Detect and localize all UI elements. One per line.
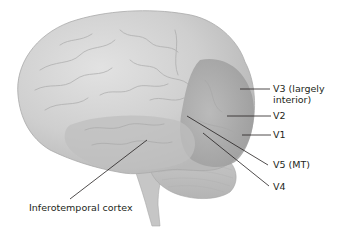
label-v3-line2: interior) bbox=[273, 94, 325, 105]
label-v3-line1: V3 (largely bbox=[273, 83, 325, 94]
label-v5-mt: V5 (MT) bbox=[273, 159, 310, 170]
label-inferotemporal-cortex: Inferotemporal cortex bbox=[29, 202, 133, 213]
label-v2: V2 bbox=[273, 110, 286, 121]
brain-diagram: V3 (largely interior) V2 V1 V5 (MT) V4 I… bbox=[0, 0, 339, 236]
brain-illustration bbox=[0, 0, 339, 236]
label-v1: V1 bbox=[273, 129, 286, 140]
label-v3: V3 (largely interior) bbox=[273, 83, 325, 105]
label-v4: V4 bbox=[273, 181, 286, 192]
